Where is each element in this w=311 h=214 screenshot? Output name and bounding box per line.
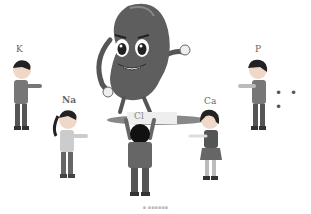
label-k: K [16,44,23,54]
child-na [52,108,92,186]
child-k [8,58,44,136]
ellipsis: • • • [275,86,311,114]
label-ca: Ca [204,96,216,106]
illustration: K Na Cl [0,0,311,214]
kidney-character [88,0,208,115]
caption: ▪ ▪▪▪▪▪▪ [0,204,311,210]
child-cl [120,118,160,202]
child-p [236,58,272,136]
label-p: P [255,44,261,54]
label-na: Na [62,95,76,105]
child-ca [186,108,226,186]
